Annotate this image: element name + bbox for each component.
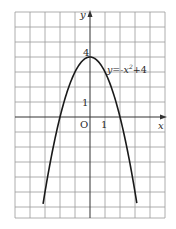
origin-label: O bbox=[80, 120, 88, 130]
x-axis-label: x bbox=[158, 121, 164, 131]
equation-tail: +4 bbox=[133, 64, 147, 75]
y-tick-1-label: 1 bbox=[82, 98, 88, 108]
chart-plot-area bbox=[0, 0, 176, 229]
equation-label: y=-x2+4 bbox=[107, 62, 147, 75]
y-axis-label: y bbox=[80, 10, 86, 20]
axes bbox=[15, 14, 164, 218]
x-tick-1-label: 1 bbox=[101, 120, 107, 130]
y-axis-arrow-icon bbox=[88, 10, 93, 17]
equation-main: y=-x bbox=[107, 64, 129, 75]
y-tick-4-label: 4 bbox=[83, 48, 89, 58]
x-axis-arrow-icon bbox=[160, 115, 167, 120]
